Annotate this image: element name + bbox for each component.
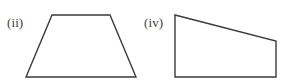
shapes-svg: [0, 0, 285, 84]
figure-label-ii: (ii): [7, 16, 23, 29]
trapezoid-iv-shape: [175, 15, 276, 77]
geometry-figure-canvas: (ii) (iv): [0, 0, 285, 84]
figure-label-iv: (iv): [144, 16, 163, 29]
trapezoid-ii-shape: [26, 15, 136, 77]
